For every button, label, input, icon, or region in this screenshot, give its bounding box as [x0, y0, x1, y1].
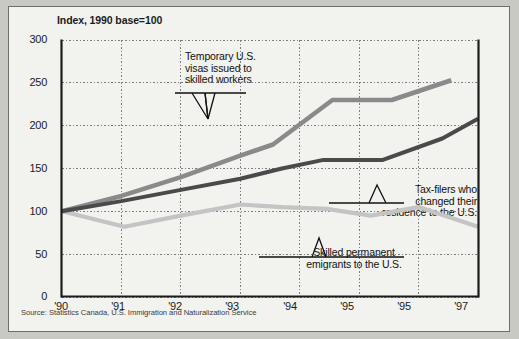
chart-series-layer	[62, 80, 478, 227]
chart-figure: Index, 1990 base=100 300 250 200 150 100…	[8, 6, 510, 332]
chart-plot-area	[9, 7, 511, 333]
annotation-leader-lines	[175, 93, 404, 257]
chart-gridlines	[62, 40, 478, 297]
